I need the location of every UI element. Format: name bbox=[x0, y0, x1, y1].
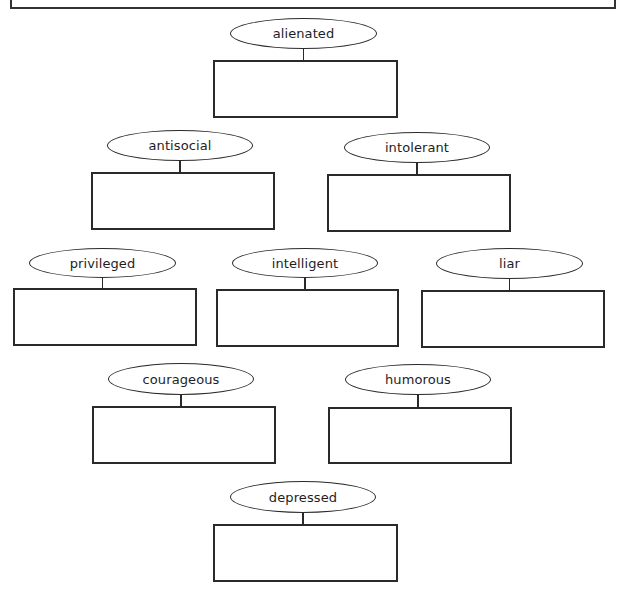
answer-box[interactable] bbox=[213, 60, 398, 118]
trait-label-ellipse: intolerant bbox=[344, 132, 490, 163]
connector-line bbox=[417, 394, 419, 408]
trait-label-ellipse: liar bbox=[436, 248, 583, 279]
trait-organizer-diagram: alienated antisocial intolerant privileg… bbox=[0, 0, 619, 598]
answer-box[interactable] bbox=[421, 290, 605, 348]
answer-box[interactable] bbox=[13, 288, 197, 346]
trait-label-ellipse: antisocial bbox=[107, 130, 253, 161]
trait-label-ellipse: courageous bbox=[108, 363, 254, 395]
trait-label-ellipse: humorous bbox=[345, 364, 491, 395]
answer-box[interactable] bbox=[92, 406, 276, 464]
answer-box[interactable] bbox=[213, 524, 398, 582]
trait-label-ellipse: alienated bbox=[230, 18, 377, 49]
trait-label-ellipse: depressed bbox=[230, 481, 376, 513]
top-text-box[interactable] bbox=[10, 0, 616, 9]
answer-box[interactable] bbox=[91, 172, 275, 230]
answer-box[interactable] bbox=[216, 289, 399, 347]
trait-label-ellipse: intelligent bbox=[232, 248, 378, 278]
answer-box[interactable] bbox=[327, 174, 511, 232]
trait-label-ellipse: privileged bbox=[29, 248, 176, 278]
answer-box[interactable] bbox=[328, 407, 512, 464]
